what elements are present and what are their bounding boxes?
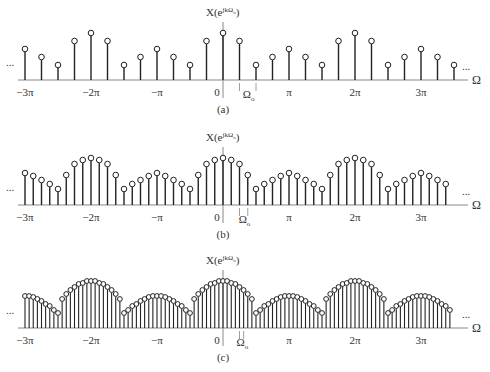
omega0-label: Ωo [243, 88, 255, 103]
tick-label: 2π [349, 334, 361, 346]
stem-marker [443, 181, 449, 187]
panel-caption: (b) [217, 228, 230, 241]
stem-marker [418, 46, 424, 52]
stem-marker [253, 62, 259, 68]
stem-marker [336, 38, 342, 44]
stem-marker [179, 181, 185, 187]
stem-marker [303, 177, 309, 183]
tick-label: −3π [16, 86, 34, 98]
stem-marker [220, 155, 226, 161]
stem-marker [64, 292, 69, 297]
tick-label: −3π [16, 334, 34, 346]
ellipsis-left: ... [6, 181, 15, 193]
tick-label: −2π [82, 86, 100, 98]
stem-marker [319, 62, 325, 68]
stem-marker [47, 304, 52, 309]
ellipsis-right: ... [462, 308, 471, 320]
stem-marker [377, 172, 383, 178]
tick-label: 0 [214, 334, 220, 346]
stem-marker [237, 161, 243, 167]
stem-marker [402, 54, 408, 60]
stem-marker [278, 173, 284, 179]
y-axis-label: X(ejkΩo) [206, 131, 240, 144]
y-axis-label: X(ejkΩo) [206, 254, 240, 267]
stem-marker [109, 288, 114, 293]
tick-label: 3π [415, 334, 427, 346]
stem-marker [55, 186, 61, 192]
stem-panel-c: ......Ω−3π−2π−π0π2π3πΩoX(ejkΩo)(c) [6, 254, 481, 364]
stem-marker [192, 297, 197, 302]
stem-marker [204, 161, 210, 167]
stem-marker [418, 170, 424, 176]
stem-marker [196, 292, 201, 297]
stem-marker [55, 62, 61, 68]
stem-marker [154, 46, 160, 52]
omega-axis-label: Ω [472, 73, 481, 87]
stem-marker [311, 181, 317, 187]
stem-marker [179, 304, 184, 309]
stem-marker [187, 62, 193, 68]
stem-marker [270, 54, 276, 60]
stem-marker [241, 288, 246, 293]
tick-label: π [286, 211, 292, 223]
stem-marker [162, 173, 168, 179]
stem-marker [171, 54, 177, 60]
stem-marker [373, 288, 378, 293]
stem-marker [385, 186, 391, 192]
stem-marker [377, 292, 382, 297]
stem-marker [56, 311, 61, 316]
stem-panel-a: ......Ω−3π−2π−π0π2π3πΩoX(ejkΩo)(a) [6, 6, 481, 116]
stem-marker [344, 157, 350, 163]
stem-marker [117, 297, 122, 302]
tick-label: −3π [16, 211, 34, 223]
stem-marker [22, 46, 28, 52]
omega0-label: Ωo [237, 336, 249, 351]
tick-label: 2π [349, 86, 361, 98]
stem-marker [327, 172, 333, 178]
ellipsis-right: ... [462, 185, 471, 197]
stem-marker [410, 173, 416, 179]
stem-marker [443, 304, 448, 309]
omega-axis-label: Ω [472, 198, 481, 212]
stem-marker [105, 161, 111, 167]
stem-marker [390, 308, 395, 313]
stem-marker [47, 181, 53, 187]
stem-marker [320, 311, 325, 316]
stem-marker [220, 30, 226, 36]
stem-marker [435, 54, 441, 60]
tick-label: 3π [415, 86, 427, 98]
stem-marker [270, 177, 276, 183]
stem-marker [369, 38, 375, 44]
stem-marker [126, 308, 131, 313]
stem-marker [426, 173, 432, 179]
stem-marker [105, 38, 111, 44]
stem-marker [30, 173, 36, 179]
stem-marker [258, 308, 263, 313]
stem-panel-b: ......Ω−3π−2π−π0π2π3πΩoX(ejkΩo)(b) [6, 131, 481, 241]
tick-label: 3π [415, 211, 427, 223]
stem-marker [253, 186, 259, 192]
omega-axis-label: Ω [472, 321, 481, 335]
panel-caption: (a) [217, 103, 230, 116]
stem-marker [369, 161, 375, 167]
stem-marker [303, 54, 309, 60]
stem-marker [294, 173, 300, 179]
tick-label: 0 [214, 211, 220, 223]
stem-marker [324, 297, 329, 302]
stem-marker [121, 186, 127, 192]
stem-marker [249, 297, 254, 302]
stem-marker [245, 292, 250, 297]
stem-marker [261, 181, 267, 187]
stem-marker [393, 181, 399, 187]
stem-marker [385, 62, 391, 68]
stem-marker [195, 172, 201, 178]
stem-marker [80, 157, 86, 163]
stem-marker [381, 297, 386, 302]
stem-marker [237, 38, 243, 44]
stem-marker [138, 177, 144, 183]
stem-marker [60, 297, 65, 302]
stem-marker [245, 172, 251, 178]
stem-marker [435, 177, 441, 183]
stem-marker [113, 172, 119, 178]
ellipsis-left: ... [6, 304, 15, 316]
